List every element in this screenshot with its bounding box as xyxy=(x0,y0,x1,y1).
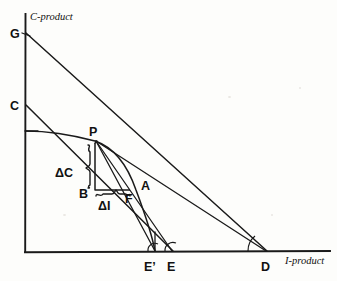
labels-group: G C P B A F E’ E D ΔC ΔI C-product I-pro… xyxy=(10,11,325,274)
point-label-C: C xyxy=(10,99,19,113)
diagram-canvas: G C P B A F E’ E D ΔC ΔI C-product I-pro… xyxy=(0,0,337,281)
delta-i-label: ΔI xyxy=(98,199,110,213)
point-label-P: P xyxy=(89,125,97,139)
scan-speck xyxy=(271,214,273,216)
point-label-F: F xyxy=(125,192,133,206)
transformation-curve xyxy=(26,131,155,251)
point-label-A: A xyxy=(141,179,150,193)
economics-diagram: G C P B A F E’ E D ΔC ΔI C-product I-pro… xyxy=(0,0,337,281)
delta-c-label: ΔC xyxy=(55,166,73,180)
axes-group xyxy=(25,14,330,252)
scan-speck xyxy=(228,96,231,98)
point-label-E-prime: E’ xyxy=(144,260,156,274)
ray-P-E xyxy=(96,141,172,251)
angle-arcs xyxy=(148,236,255,251)
delta-c-brace xyxy=(86,145,90,188)
point-label-E: E xyxy=(167,260,175,274)
scan-speck xyxy=(63,214,66,216)
x-axis xyxy=(25,251,330,252)
point-label-B: B xyxy=(79,187,88,201)
point-label-G: G xyxy=(10,27,20,41)
point-label-D: D xyxy=(261,260,270,274)
ray-P-D xyxy=(96,141,266,251)
y-axis-label: C-product xyxy=(30,11,74,22)
price-line-C-E xyxy=(26,105,173,251)
x-axis-label: I-product xyxy=(284,255,325,266)
scan-speck xyxy=(299,87,301,89)
